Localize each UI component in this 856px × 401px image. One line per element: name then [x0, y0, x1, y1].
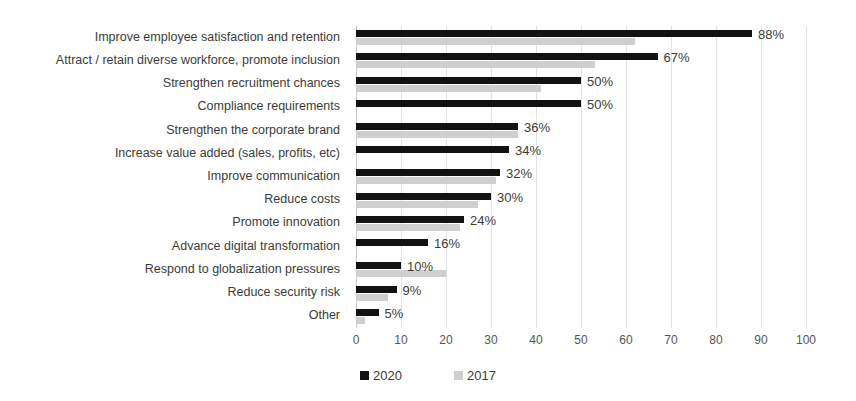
x-axis-tick-label: 60 [619, 334, 632, 346]
bar-group: 34% [356, 142, 806, 165]
bar-2017 [356, 224, 460, 231]
x-axis-tick-label: 50 [574, 334, 587, 346]
legend-swatch-icon [454, 371, 463, 380]
bar-group: 24% [356, 212, 806, 235]
x-axis-tick-label: 80 [709, 334, 722, 346]
bar-value-label: 16% [434, 237, 460, 250]
bar-2020 [356, 216, 464, 223]
bar-group: 50% [356, 72, 806, 95]
bar-2020 [356, 77, 581, 84]
x-axis-tick-label: 100 [796, 334, 816, 346]
gridline [806, 26, 807, 328]
bar-chart: Improve employee satisfaction and retent… [0, 0, 856, 401]
bar-value-label: 30% [497, 191, 523, 204]
legend-item[interactable]: 2017 [454, 368, 496, 383]
x-axis-tick-label: 90 [754, 334, 767, 346]
bar-group: 30% [356, 189, 806, 212]
bar-value-label: 50% [587, 75, 613, 88]
x-axis-tick-label: 30 [484, 334, 497, 346]
bar-2017 [356, 38, 635, 45]
bar-value-label: 67% [664, 51, 690, 64]
chart-legend: 20202017 [0, 368, 856, 383]
bar-group: 36% [356, 119, 806, 142]
category-label: Attract / retain diverse workforce, prom… [56, 54, 340, 67]
bar-rows: 88%67%50%50%36%34%32%30%24%16%10%9%5% [356, 26, 806, 328]
bar-group: 5% [356, 305, 806, 328]
category-label: Advance digital transformation [172, 240, 340, 253]
bar-value-label: 9% [403, 284, 422, 297]
x-axis-tick-label: 40 [529, 334, 542, 346]
bar-group: 67% [356, 49, 806, 72]
bar-2017 [356, 294, 388, 301]
bar-2020 [356, 262, 401, 269]
bar-2020 [356, 239, 428, 246]
x-axis-tick-label: 70 [664, 334, 677, 346]
category-label: Reduce security risk [227, 286, 340, 299]
bar-group: 10% [356, 258, 806, 281]
bar-group: 9% [356, 282, 806, 305]
category-label: Increase value added (sales, profits, et… [115, 147, 340, 160]
bar-group: 50% [356, 96, 806, 119]
x-axis-tick-label: 10 [394, 334, 407, 346]
bar-2020 [356, 286, 397, 293]
bar-group: 16% [356, 235, 806, 258]
bar-2020 [356, 100, 581, 107]
bar-2020 [356, 123, 518, 130]
bar-value-label: 32% [506, 167, 532, 180]
bar-2017 [356, 131, 518, 138]
bar-value-label: 88% [758, 28, 784, 41]
category-label: Compliance requirements [198, 100, 340, 113]
category-axis-labels: Improve employee satisfaction and retent… [0, 26, 348, 328]
bar-2020 [356, 53, 658, 60]
bar-value-label: 10% [407, 260, 433, 273]
bar-group: 32% [356, 165, 806, 188]
bar-value-label: 5% [385, 307, 404, 320]
category-label: Strengthen recruitment chances [163, 77, 340, 90]
x-axis-tick-label: 0 [353, 334, 360, 346]
bar-2017 [356, 201, 478, 208]
bar-group: 88% [356, 26, 806, 49]
category-label: Promote innovation [232, 216, 340, 229]
bar-2020 [356, 169, 500, 176]
x-axis: 0102030405060708090100 [356, 328, 806, 350]
legend-label: 2020 [373, 368, 402, 383]
bar-2017 [356, 177, 496, 184]
bar-value-label: 24% [470, 214, 496, 227]
bar-value-label: 50% [587, 98, 613, 111]
bar-2020 [356, 146, 509, 153]
category-label: Improve employee satisfaction and retent… [95, 31, 340, 44]
category-label: Improve communication [207, 170, 340, 183]
bar-2020 [356, 309, 379, 316]
legend-item[interactable]: 2020 [360, 368, 402, 383]
bar-2017 [356, 317, 365, 324]
category-label: Other [309, 309, 340, 322]
category-label: Reduce costs [264, 193, 340, 206]
bar-value-label: 34% [515, 144, 541, 157]
bar-2017 [356, 61, 595, 68]
bar-2017 [356, 85, 541, 92]
category-label: Respond to globalization pressures [145, 263, 340, 276]
bar-2020 [356, 30, 752, 37]
legend-label: 2017 [467, 368, 496, 383]
plot-area: 88%67%50%50%36%34%32%30%24%16%10%9%5% [356, 26, 806, 328]
bar-2020 [356, 193, 491, 200]
legend-swatch-icon [360, 371, 369, 380]
bar-value-label: 36% [524, 121, 550, 134]
x-axis-tick-label: 20 [439, 334, 452, 346]
category-label: Strengthen the corporate brand [166, 124, 340, 137]
